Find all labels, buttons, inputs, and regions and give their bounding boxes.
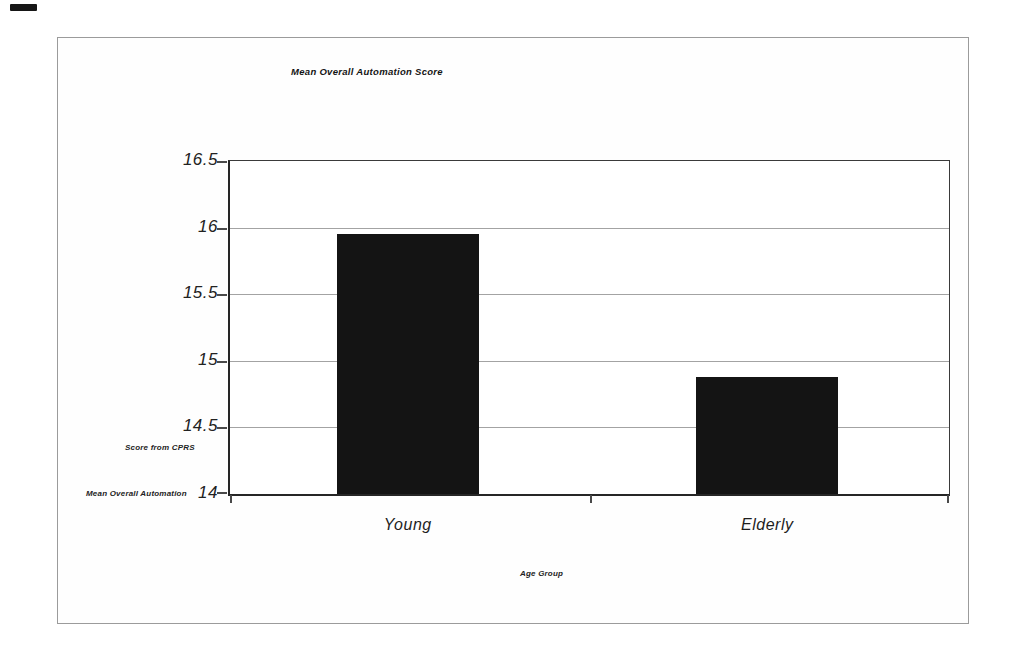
y-tick-label: 16 [100, 216, 218, 238]
y-axis-tick [217, 161, 227, 163]
x-axis-tick [590, 495, 592, 503]
y-axis-tick [217, 427, 227, 429]
y-tick-label: 15.5 [100, 282, 218, 304]
scan-artifact [10, 4, 37, 11]
x-category-labels: YoungElderly [228, 516, 950, 540]
chart-title: Mean Overall Automation Score [291, 66, 443, 77]
bar [696, 377, 838, 494]
plot-area [228, 160, 950, 496]
y-axis-tick [217, 361, 227, 363]
y-axis-title-line-lower: Mean Overall Automation [86, 489, 187, 498]
y-tick-label: 14.5 [100, 415, 218, 437]
page: { "figure": { "title": "Mean Overall Aut… [0, 0, 1016, 667]
y-tick-label: 15 [100, 349, 218, 371]
y-axis-tick [217, 228, 227, 230]
y-axis-tick [217, 294, 227, 296]
x-axis-tick [947, 495, 949, 503]
x-axis-title: Age Group [520, 569, 563, 578]
bar [337, 234, 479, 494]
category-label: Young [228, 516, 588, 534]
y-axis-title-line-upper: Score from CPRS [125, 443, 195, 452]
y-axis-tick [217, 492, 227, 494]
gridline [230, 228, 949, 229]
category-label: Elderly [588, 516, 948, 534]
y-tick-label: 16.5 [100, 149, 218, 171]
x-axis-tick [230, 495, 232, 503]
